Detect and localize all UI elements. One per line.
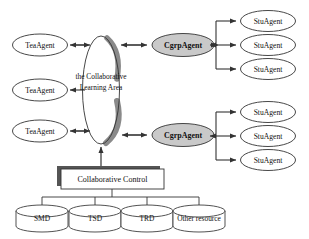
student-agent-shapes (241, 11, 296, 171)
collaborative-control-shape (57, 166, 164, 189)
group1-student-bus (210, 21, 236, 69)
control-resource-connectors (42, 189, 199, 207)
cylinder-smd (16, 205, 68, 232)
stu-agent-oval-5 (241, 126, 296, 147)
cgrp-agent-oval-2 (152, 124, 214, 147)
architecture-diagram: TeaAgent TeaAgent TeaAgent the Collabora… (0, 0, 309, 239)
collaborative-learning-area-label: the Collaborative Learning Area (62, 71, 140, 93)
stu-agent-oval-4 (241, 102, 296, 123)
cylinder-other-resource (173, 205, 225, 232)
cylinder-tsd (69, 205, 121, 232)
area-label-line1: the Collaborative (62, 71, 140, 82)
stu-agent-oval-2 (241, 35, 296, 56)
cylinder-trd (121, 205, 173, 232)
diagram-canvas (0, 0, 309, 239)
tea-agent-oval-2 (13, 79, 68, 101)
stu-agent-oval-1 (241, 11, 296, 32)
tea-agent-oval-1 (13, 34, 68, 56)
stu-agent-oval-6 (241, 150, 296, 171)
group-agent-shapes (152, 34, 214, 147)
resource-cylinder-shapes (16, 205, 225, 232)
tea-agent-oval-3 (13, 120, 68, 142)
cgrp-agent-oval-1 (152, 34, 214, 57)
stu-agent-oval-3 (241, 59, 296, 80)
group2-student-bus (210, 112, 236, 160)
teacher-agent-shapes (13, 34, 68, 142)
area-label-line2: Learning Area (62, 82, 140, 93)
